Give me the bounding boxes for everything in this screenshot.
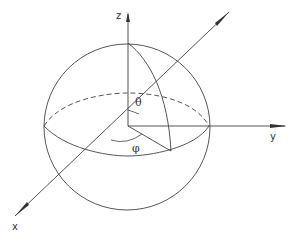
y-axis-arrow xyxy=(270,124,287,128)
x-axis-label: x xyxy=(12,221,18,232)
z-axis-label: z xyxy=(116,10,121,21)
theta-label: θ xyxy=(135,96,142,109)
theta-arc xyxy=(128,110,139,114)
z-axis-arrow xyxy=(126,12,130,22)
x-axis-arrow-bottom xyxy=(15,202,29,216)
x-axis xyxy=(15,12,229,216)
y-axis-label: y xyxy=(270,131,276,142)
phi-label: φ xyxy=(132,142,140,155)
sphere-outline xyxy=(44,44,210,210)
x-axis-arrow-top xyxy=(215,12,229,26)
spherical-coordinates-diagram: z y x θ φ xyxy=(0,0,295,237)
phi-arc xyxy=(111,134,142,142)
